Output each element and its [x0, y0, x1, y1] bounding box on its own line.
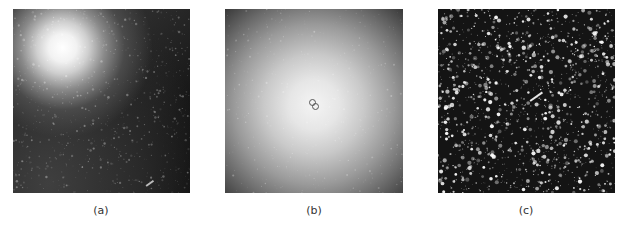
star-field-a: [13, 9, 190, 193]
panel-a-image: [13, 9, 190, 193]
panel-label-c: (c): [506, 204, 546, 217]
panel-b-image: [225, 9, 403, 193]
star-field-c: [438, 9, 615, 193]
panel-label-a: (a): [81, 204, 121, 217]
circle-marker-2: [312, 103, 319, 110]
panel-label-b: (b): [294, 204, 334, 217]
panel-c-image: [438, 9, 615, 193]
